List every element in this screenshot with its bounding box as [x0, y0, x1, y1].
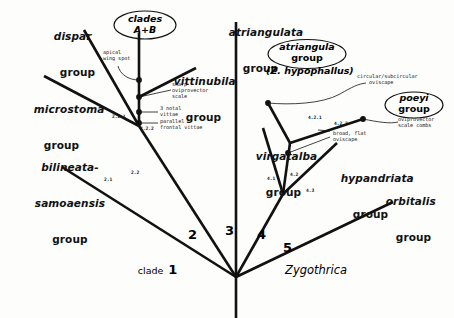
group-label-orbitalis-line2: group [396, 232, 431, 244]
char-note-parallel-frontal-vittae: parallel frontal vittae [160, 119, 202, 131]
group-label-bilineata-line1b: samoaensis [35, 197, 105, 209]
ellipse-label-poeyi-line2: group [388, 103, 440, 114]
node-number-2-2-2: 2.2.2 [140, 126, 154, 131]
group-label-orbitalis-line1: orbitalis [386, 195, 436, 207]
cladogram-figure: dispar group microstoma group bilineata-… [0, 0, 454, 318]
group-label-microstoma-line1: microstoma [34, 103, 105, 115]
group-label-virgatalba-line1: virgatalba [256, 150, 318, 162]
char-note-broad-flat-oviscape: broad, flat oviscape [333, 131, 366, 143]
genus-label-zygothrica: Zygothrica [285, 264, 347, 277]
char-note-sharp-oviprovector-scale: sharp oviprovector scale [172, 82, 208, 99]
leader-apical-wing-spot [118, 66, 139, 80]
node-number-4-2-2: 4.2.2 [334, 121, 348, 126]
node-number-4-3: 4.3 [306, 188, 314, 193]
node-number-2-2-1: 2.2.1 [112, 114, 126, 119]
char-note-circular-subcircular-oviscape: circular/subcircular oviscape [357, 74, 417, 86]
ellipse-label-clades-ab: clades A+B [118, 13, 172, 35]
ellipse-label-atriangula-line2: group [270, 52, 344, 63]
clade-label-1-num: 1 [168, 262, 177, 277]
ellipse-label-poeyi: poeyi group [388, 92, 440, 114]
char-note-three-notal-vittae: 3 notal vittae [160, 106, 181, 118]
clade-label-5: 5 [283, 241, 292, 256]
group-label-dispar-line1: dispar [54, 30, 92, 42]
node-number-4-2-1: 4.2.1 [308, 115, 322, 120]
clade-label-1-word: clade [138, 265, 164, 276]
leader-oviprovector-combs [363, 119, 398, 123]
node-number-4-1: 4.1 [267, 176, 275, 181]
node-number-4-2: 4.2 [290, 172, 298, 177]
group-label-bilineata-line2: group [52, 233, 87, 245]
ellipse-label-poeyi-line1: poeyi [388, 92, 440, 103]
group-label-orbitalis: orbitalis group [368, 173, 436, 263]
group-label-dispar-line2: group [60, 67, 95, 79]
ellipse-label-atriangula-line1: atriangula [270, 41, 344, 52]
group-label-bilineata-samoaensis: bilineata- samoaensis group [17, 139, 105, 264]
clade-label-2: 2 [188, 228, 197, 243]
ellipse-label-atriangula-paren: (Z. hypophallus) [266, 65, 354, 76]
node-number-2-1: 2.1 [104, 177, 112, 182]
clade-label-3: 3 [225, 224, 234, 239]
ellipse-label-clades-ab-line2: A+B [118, 24, 172, 35]
clade-label-4: 4 [257, 228, 266, 243]
char-note-apical-wing-spot: apical wing spot [103, 50, 130, 62]
ellipse-label-atriangula: atriangula group [270, 41, 344, 63]
group-label-virgatalba-line2: group [266, 187, 301, 199]
ellipse-label-clades-ab-line1: clades [118, 13, 172, 24]
group-label-bilineata-line1: bilineata- [41, 161, 98, 173]
node-number-2-2: 2.2 [131, 170, 139, 175]
group-label-atriangulata-line1: atriangulata [229, 26, 303, 38]
char-note-oviprovector-scale-combs: oviprovector scale combs [398, 117, 434, 129]
clade-label-1: clade1 [120, 242, 177, 296]
group-label-virgatalba: virgatalba group [238, 128, 317, 218]
